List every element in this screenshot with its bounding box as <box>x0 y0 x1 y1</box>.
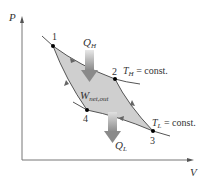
x-axis-label: V <box>190 166 198 178</box>
state-point-1 <box>51 44 55 48</box>
t-h-const-label: TH = const. <box>123 65 168 78</box>
state-point-2 <box>113 77 117 81</box>
diagram-canvas: P V QH QL Wnet,out TH = const. TL = cons… <box>0 0 209 182</box>
q-h-label: QH <box>83 36 97 50</box>
state-point-3 <box>151 129 155 133</box>
isotherm-th-ext <box>115 79 140 84</box>
point-2-label: 2 <box>112 66 117 77</box>
point-1-label: 1 <box>52 31 57 42</box>
q-l-label: QL <box>115 139 127 153</box>
point-4-label: 4 <box>83 113 88 124</box>
state-point-4 <box>85 108 89 112</box>
isotherm-tl-ext-right <box>153 131 170 136</box>
direction-arrow-icon <box>130 100 135 106</box>
cycle-area <box>53 46 153 131</box>
carnot-pv-diagram: P V QH QL Wnet,out TH = const. TL = cons… <box>0 0 209 182</box>
y-axis-label: P <box>8 11 16 23</box>
x-axis-arrow-icon <box>187 158 194 162</box>
y-axis-arrow-icon <box>20 16 24 23</box>
point-3-label: 3 <box>150 135 155 146</box>
direction-arrow-icon <box>64 80 69 86</box>
t-l-const-label: TL = const. <box>152 117 196 130</box>
